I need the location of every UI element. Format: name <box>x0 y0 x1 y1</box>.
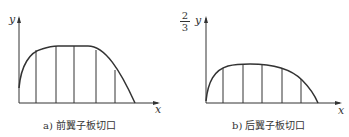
y-axis-label-a: y <box>9 13 15 26</box>
x-axis-label-b: x <box>338 104 344 117</box>
caption-b: b) 后翼子板切口 <box>232 117 305 132</box>
caption-a: a) 前翼子板切口 <box>43 117 116 132</box>
y-axis-label-b: y <box>195 14 201 27</box>
x-axis-label-a: x <box>155 103 161 116</box>
fraction-two-thirds: 2 3 <box>180 10 190 33</box>
figure-a <box>17 16 160 105</box>
fraction-denominator: 3 <box>180 22 190 33</box>
fraction-numerator: 2 <box>180 10 190 22</box>
figure-b <box>204 16 342 105</box>
